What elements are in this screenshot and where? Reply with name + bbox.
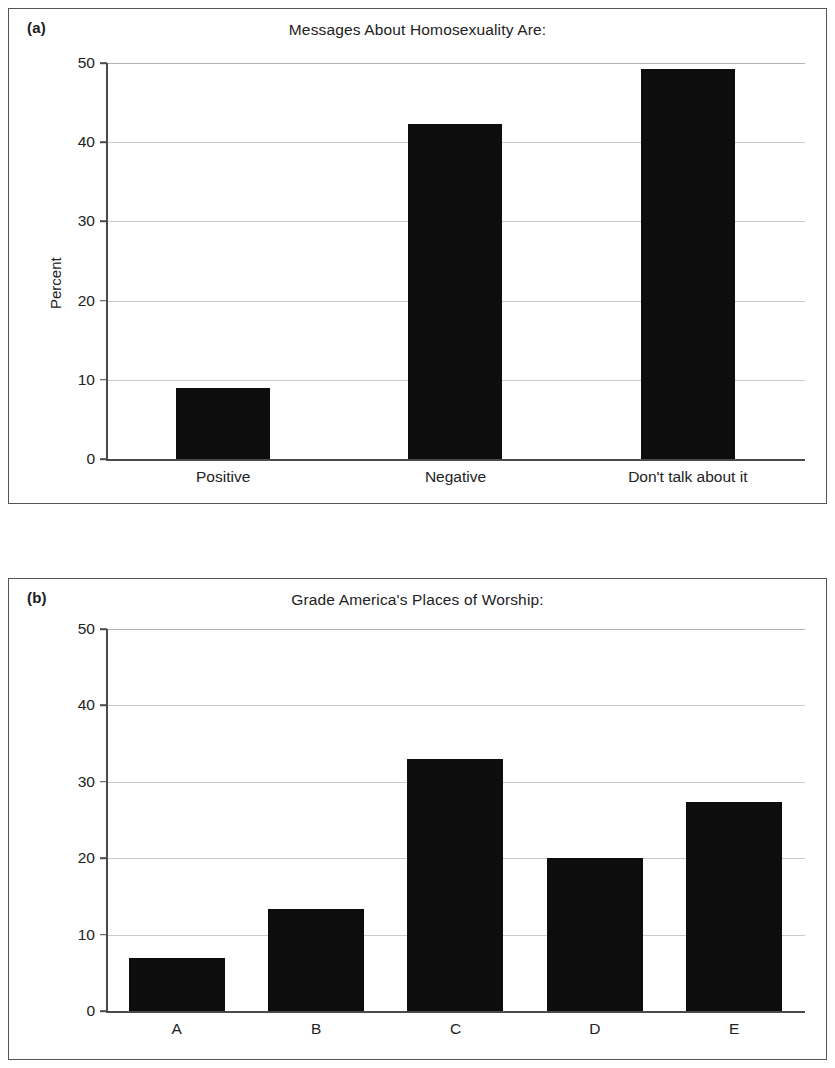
y-tick-b-0: 50 bbox=[78, 620, 107, 638]
bar bbox=[268, 909, 364, 1011]
chart-panel-a: (a) Messages About Homosexuality Are: 50… bbox=[8, 8, 827, 504]
chart-title-b: Grade America's Places of Worship: bbox=[9, 591, 826, 609]
bar-slot: Negative bbox=[339, 63, 571, 459]
y-tick-a-2: 30 bbox=[78, 212, 107, 230]
x-tick-label: B bbox=[311, 1020, 321, 1038]
y-tick-a-1: 40 bbox=[78, 133, 107, 151]
x-tick-label: C bbox=[450, 1020, 461, 1038]
plot-area-a: 50 40 30 20 10 0 PositiveNegativeDon't t… bbox=[107, 63, 804, 459]
bar bbox=[686, 802, 782, 1011]
y-axis-label-a: Percent bbox=[47, 257, 64, 309]
x-axis-line-b bbox=[106, 1011, 805, 1013]
y-tick-a-4: 10 bbox=[78, 371, 107, 389]
x-tick-label: Positive bbox=[196, 468, 250, 486]
chart-panel-b: (b) Grade America's Places of Worship: 5… bbox=[8, 578, 827, 1060]
bar-slot: D bbox=[525, 629, 664, 1011]
x-tick-label: A bbox=[172, 1020, 182, 1038]
x-tick-label: D bbox=[589, 1020, 600, 1038]
bar-slot: A bbox=[107, 629, 246, 1011]
bar-slot: E bbox=[665, 629, 804, 1011]
y-tick-b-2: 30 bbox=[78, 773, 107, 791]
y-tick-a-3: 20 bbox=[78, 292, 107, 310]
y-tick-b-1: 40 bbox=[78, 696, 107, 714]
plot-area-b: 50 40 30 20 10 0 ABCDE bbox=[107, 629, 804, 1011]
y-tick-b-3: 20 bbox=[78, 849, 107, 867]
y-tick-a-5: 0 bbox=[86, 450, 107, 468]
bar bbox=[547, 858, 643, 1011]
bar-slot: B bbox=[246, 629, 385, 1011]
y-tick-b-5: 0 bbox=[86, 1002, 107, 1020]
bar-slot: Positive bbox=[107, 63, 339, 459]
bar-group-b: ABCDE bbox=[107, 629, 804, 1011]
bar bbox=[129, 958, 225, 1011]
x-tick-label: E bbox=[729, 1020, 739, 1038]
y-tick-a-0: 50 bbox=[78, 54, 107, 72]
bar bbox=[408, 124, 502, 459]
bar-group-a: PositiveNegativeDon't talk about it bbox=[107, 63, 804, 459]
bar bbox=[641, 69, 735, 459]
bar-slot: Don't talk about it bbox=[572, 63, 804, 459]
x-tick-label: Don't talk about it bbox=[628, 468, 747, 486]
bar-slot: C bbox=[386, 629, 525, 1011]
x-tick-label: Negative bbox=[425, 468, 486, 486]
chart-title-a: Messages About Homosexuality Are: bbox=[9, 21, 826, 39]
bar bbox=[407, 759, 503, 1011]
bar bbox=[176, 388, 270, 459]
x-axis-line-a bbox=[106, 459, 805, 461]
y-tick-b-4: 10 bbox=[78, 926, 107, 944]
